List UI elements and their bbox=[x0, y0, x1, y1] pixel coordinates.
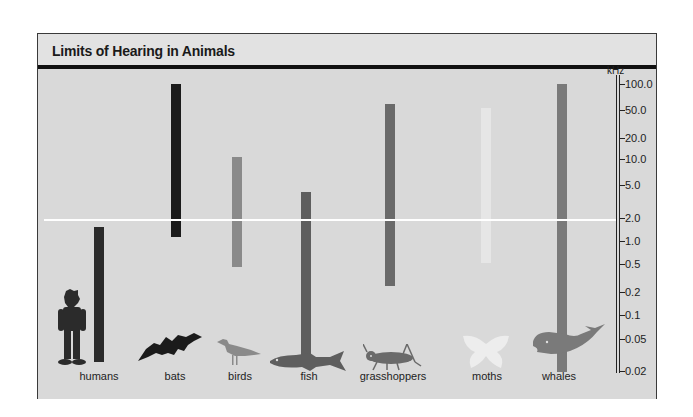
bar-humans bbox=[94, 227, 104, 362]
bar-bats bbox=[171, 84, 181, 237]
label-grasshoppers: grasshoppers bbox=[348, 370, 438, 382]
bar-birds bbox=[232, 157, 242, 267]
axis-line-inner bbox=[619, 75, 620, 373]
bar-moths bbox=[481, 108, 491, 263]
plot-area: kHz 100.0 50.0 20.0 10.0 5.0 2.0 1.0 0.5… bbox=[38, 69, 656, 399]
bat-icon bbox=[138, 331, 204, 363]
chart-frame: Limits of Hearing in Animals kHz 100.0 5… bbox=[37, 33, 657, 399]
whale-icon bbox=[531, 324, 607, 364]
human-icon bbox=[54, 289, 90, 369]
bird-icon bbox=[215, 336, 265, 366]
chart-title: Limits of Hearing in Animals bbox=[52, 43, 235, 59]
label-fish: fish bbox=[264, 370, 354, 382]
reference-line-2khz bbox=[44, 219, 616, 221]
label-whales: whales bbox=[514, 370, 604, 382]
axis-line-outer bbox=[616, 75, 617, 373]
grasshopper-icon bbox=[363, 344, 423, 372]
bar-fish bbox=[301, 192, 311, 362]
title-band: Limits of Hearing in Animals bbox=[38, 34, 656, 66]
bar-grasshoppers bbox=[385, 104, 395, 286]
moth-icon bbox=[461, 334, 511, 370]
